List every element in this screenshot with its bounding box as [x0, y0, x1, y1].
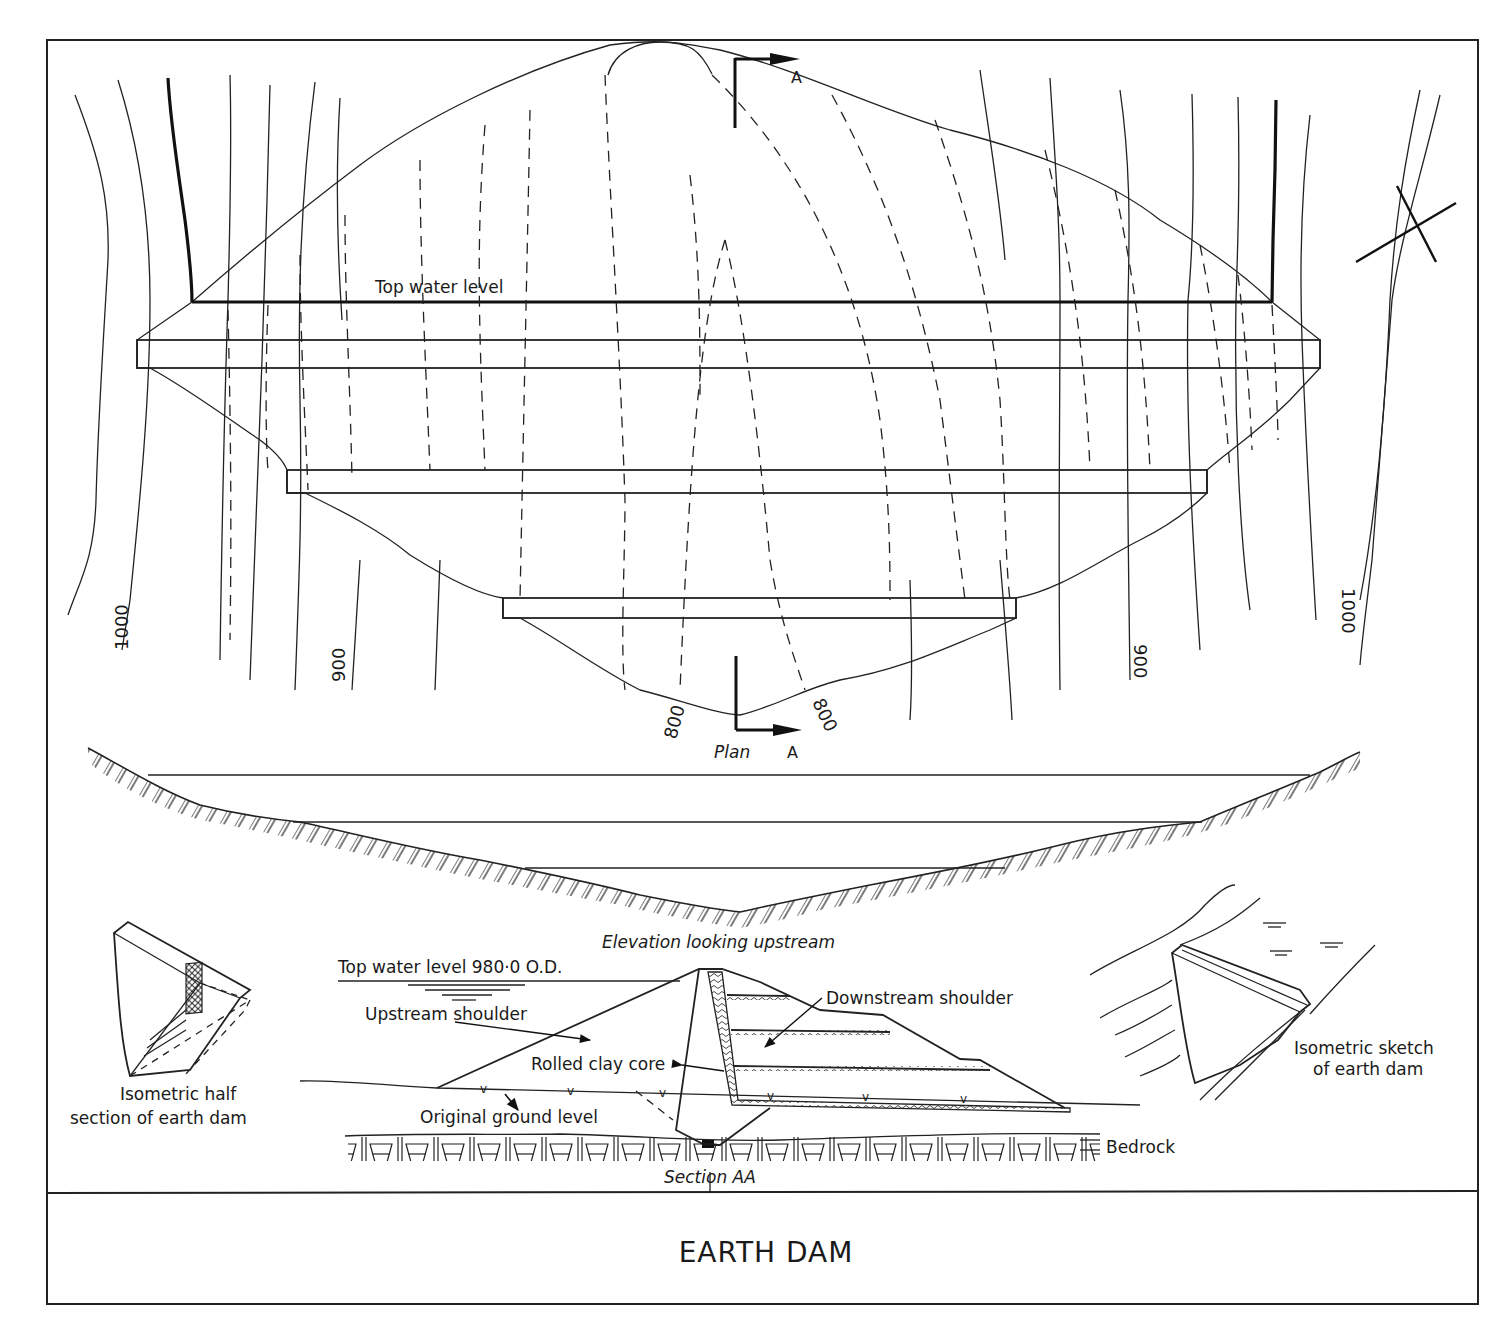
section-aa-caption: Section AA [664, 1167, 756, 1187]
contour-label-900-right: 900 [1130, 644, 1151, 678]
contour-label-1000-left: 1000 [111, 604, 132, 650]
svg-text:v: v [767, 1089, 774, 1103]
iso-half-caption-line1: Isometric half [120, 1084, 237, 1104]
bedrock-label: Bedrock [1106, 1137, 1175, 1157]
lower-berm [503, 598, 1016, 618]
svg-text:v: v [567, 1084, 574, 1098]
north-cross-icon [1356, 186, 1456, 262]
iso-sketch-caption-line1: Isometric sketch [1294, 1038, 1434, 1058]
iso-half-caption-line2: section of earth dam [70, 1108, 247, 1128]
svg-text:v: v [862, 1090, 869, 1104]
right-abutment-line [1272, 100, 1276, 302]
isometric-sketch: Isometric sketch of earth dam [1090, 885, 1434, 1100]
contour-label-1000-right: 1000 [1338, 588, 1359, 634]
arrow-right-icon [773, 724, 802, 736]
top-water-level-value: Top water level 980·0 O.D. [337, 957, 562, 977]
plan-view: Top water level [68, 42, 1456, 762]
top-water-level-label: Top water level [374, 277, 503, 297]
upstream-shoulder-label: Upstream shoulder [365, 1004, 527, 1024]
water-level-symbols [1263, 923, 1343, 955]
contour-label-800-left: 800 [660, 702, 689, 741]
arrow-right-icon [770, 53, 800, 65]
rolled-clay-core-label: Rolled clay core [531, 1054, 665, 1074]
elevation-caption: Elevation looking upstream [602, 932, 835, 952]
svg-text:v: v [960, 1092, 967, 1106]
contour-label-800-right: 800 [808, 695, 842, 735]
svg-text:A: A [791, 68, 802, 87]
svg-text:v: v [480, 1082, 487, 1096]
earth-dam-drawing: Top water level [0, 0, 1499, 1333]
downstream-shoulder-label: Downstream shoulder [826, 988, 1013, 1008]
left-abutment-line [168, 78, 192, 302]
iso-sketch-caption-line2: of earth dam [1313, 1059, 1423, 1079]
contour-lines-left [68, 75, 440, 690]
original-ground-level-label: Original ground level [420, 1107, 598, 1127]
section-aa: Top water level 980·0 O.D. v v v v v v [300, 957, 1175, 1193]
isometric-half-section: Isometric half section of earth dam [70, 922, 250, 1128]
svg-text:A: A [787, 743, 798, 762]
upper-berm [287, 470, 1207, 493]
svg-text:v: v [659, 1086, 666, 1100]
reservoir-outline [192, 42, 1272, 302]
contour-lines-right [910, 70, 1440, 720]
drawing-title: EARTH DAM [679, 1236, 854, 1269]
contour-label-900-left: 900 [328, 648, 349, 682]
elevation-view: Elevation looking upstream [88, 748, 1360, 952]
plan-caption: Plan [714, 742, 750, 762]
